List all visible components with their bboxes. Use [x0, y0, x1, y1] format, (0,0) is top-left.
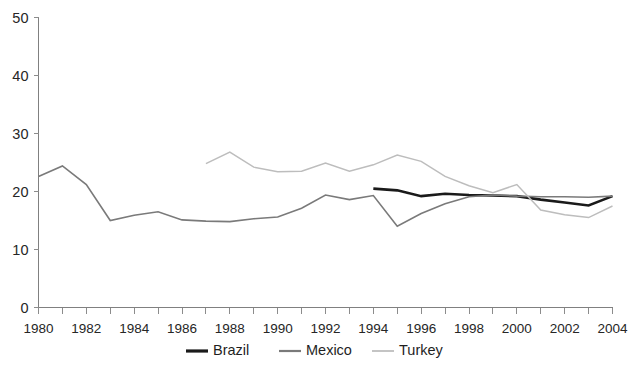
series-line-turkey: [206, 152, 613, 218]
y-tick-label-20: 20: [12, 184, 28, 200]
legend-label-brazil: Brazil: [213, 342, 249, 358]
chart-legend: BrazilMexicoTurkey: [186, 342, 444, 358]
x-tick-label-1998: 1998: [454, 321, 484, 336]
chart-canvas: 01020304050 1980198219841986198819901992…: [0, 0, 633, 373]
y-tick-label-40: 40: [12, 68, 28, 84]
x-tick-label-1986: 1986: [167, 321, 197, 336]
x-axis: 1980198219841986198819901992199419961998…: [23, 308, 628, 336]
line-chart: 01020304050 1980198219841986198819901992…: [0, 0, 633, 373]
x-tick-label-1982: 1982: [71, 321, 101, 336]
series-lines: [39, 152, 613, 226]
legend-label-mexico: Mexico: [306, 342, 352, 358]
series-line-mexico: [39, 166, 613, 226]
x-tick-label-1994: 1994: [358, 321, 389, 336]
legend-label-turkey: Turkey: [399, 342, 444, 358]
x-tick-label-1990: 1990: [263, 321, 293, 336]
x-tick-label-1988: 1988: [215, 321, 245, 336]
x-tick-label-2004: 2004: [597, 321, 628, 336]
y-tick-label-50: 50: [12, 10, 28, 26]
x-tick-label-1980: 1980: [23, 321, 53, 336]
x-tick-label-1984: 1984: [119, 321, 150, 336]
x-tick-label-2000: 2000: [502, 321, 532, 336]
y-tick-label-0: 0: [20, 300, 28, 316]
y-tick-label-10: 10: [12, 242, 28, 258]
x-tick-label-1992: 1992: [310, 321, 340, 336]
x-tick-label-1996: 1996: [406, 321, 436, 336]
y-tick-label-30: 30: [12, 126, 28, 142]
y-axis: 01020304050: [12, 10, 38, 316]
x-tick-label-2002: 2002: [550, 321, 580, 336]
